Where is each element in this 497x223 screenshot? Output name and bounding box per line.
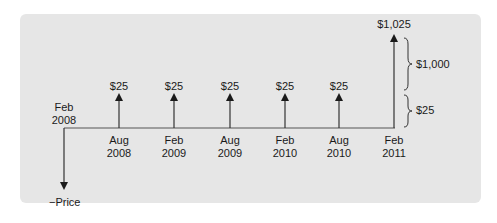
price-label: −Price: [49, 196, 81, 209]
brace-principal: [404, 38, 412, 90]
brace-label-coupon: $25: [416, 104, 434, 117]
date-label: Feb 2011: [374, 134, 414, 160]
date-month: Aug: [99, 134, 139, 147]
start-month: Feb: [44, 101, 84, 114]
date-year: 2011: [374, 147, 414, 160]
amount-label: $25: [210, 80, 250, 93]
amount-label: $25: [99, 80, 139, 93]
date-label: Feb 2010: [265, 134, 305, 160]
amount-label-final: $1,025: [369, 18, 419, 31]
date-year: 2010: [265, 147, 305, 160]
date-month: Feb: [154, 134, 194, 147]
brace-label-principal: $1,000: [416, 58, 450, 71]
brace-coupon: [404, 95, 412, 127]
date-year: 2009: [210, 147, 250, 160]
date-year: 2008: [99, 147, 139, 160]
date-year: 2010: [319, 147, 359, 160]
start-year: 2008: [44, 114, 84, 127]
date-month: Feb: [374, 134, 414, 147]
date-year: 2009: [154, 147, 194, 160]
date-label: Aug 2009: [210, 134, 250, 160]
date-label: Aug 2008: [99, 134, 139, 160]
date-label: Feb 2009: [154, 134, 194, 160]
amount-label: $25: [319, 80, 359, 93]
date-month: Feb: [265, 134, 305, 147]
date-month: Aug: [319, 134, 359, 147]
date-month: Aug: [210, 134, 250, 147]
amount-label: $25: [265, 80, 305, 93]
date-label: Aug 2010: [319, 134, 359, 160]
amount-label: $25: [154, 80, 194, 93]
start-date-label: Feb 2008: [44, 101, 84, 127]
